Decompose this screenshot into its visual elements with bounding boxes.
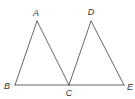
- segment-ab: [15, 21, 37, 85]
- label-e: E: [127, 82, 134, 92]
- triangle-segments: [15, 21, 124, 85]
- label-d: D: [88, 7, 95, 17]
- label-b: B: [4, 81, 10, 91]
- segment-dc: [69, 21, 91, 85]
- geometry-diagram: A B C D E: [0, 0, 135, 99]
- segment-de: [91, 21, 124, 85]
- label-a: A: [32, 8, 39, 18]
- label-c: C: [66, 88, 73, 98]
- segment-ac: [37, 21, 69, 85]
